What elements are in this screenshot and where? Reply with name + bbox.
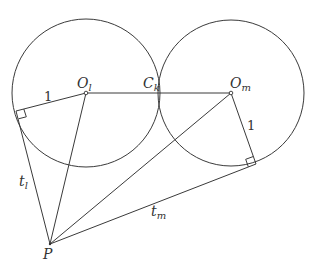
label-t-m: tm bbox=[151, 203, 166, 221]
label-O-m: Om bbox=[230, 75, 251, 93]
label-O-l: Ol bbox=[77, 75, 92, 93]
tangent-circles-diagram: Ol Ck Om 1 1 tl tm P bbox=[0, 0, 316, 271]
segment-P-O-l bbox=[50, 93, 86, 244]
point-O-l bbox=[84, 91, 88, 95]
label-t-l: tl bbox=[19, 173, 28, 191]
label-P: P bbox=[42, 246, 53, 262]
point-O-m bbox=[229, 91, 233, 95]
point-P bbox=[49, 243, 51, 245]
label-radius-m: 1 bbox=[247, 118, 255, 133]
segment-P-O-m bbox=[50, 93, 231, 244]
label-C-k: Ck bbox=[143, 75, 160, 93]
label-radius-l: 1 bbox=[44, 89, 52, 104]
